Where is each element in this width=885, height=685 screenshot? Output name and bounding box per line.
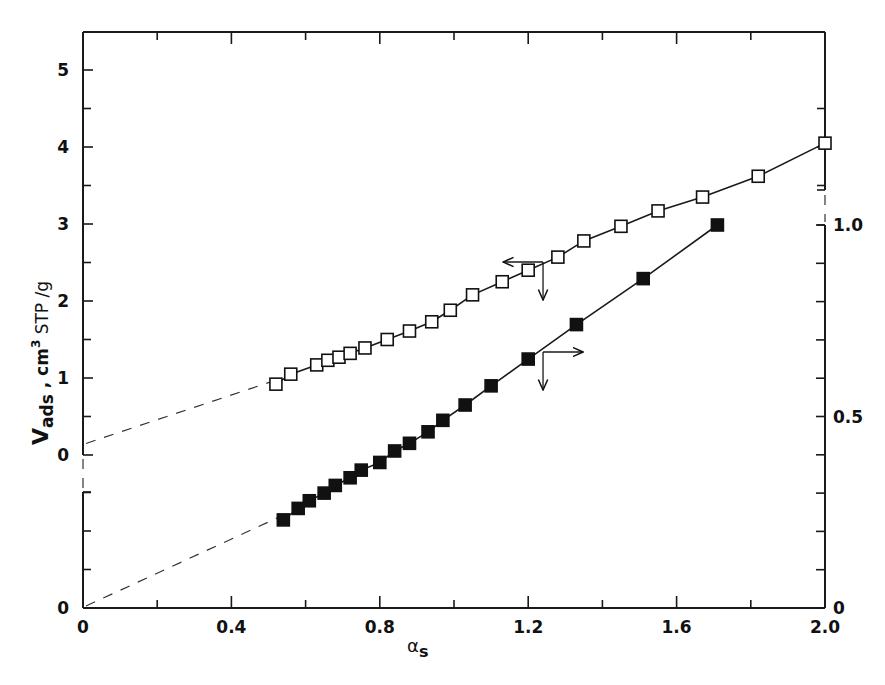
x-axis-title-sub: s [419,642,429,661]
filled-square-marker [329,479,341,491]
open-square-marker [403,325,415,337]
filled-square-marker [344,472,356,484]
open-square-marker [444,304,456,316]
left-y-tick-label: 5 [57,60,69,80]
open-square-marker [344,347,356,359]
left-y-tick-label: 0 [57,445,69,465]
open-square-marker [285,368,297,380]
open-square-marker [426,316,438,328]
open-square-marker [552,251,564,263]
open-square-marker [522,264,534,276]
filled-square-marker [374,456,386,468]
y-axis-title-sup: 3 [29,340,43,348]
open-square-marker [496,276,508,288]
open-square-marker [270,378,282,390]
y-axis-title-rest: , cm [32,348,52,394]
filled-square-marker [403,437,415,449]
filled-square-marker [318,487,330,499]
open-series-extrapolation [86,382,270,443]
open-square-marker [697,191,709,203]
x-tick-label: 1.6 [662,617,692,637]
open-square-marker [652,205,664,217]
alpha-s-plot: 00.40.81.21.62.0012345000.51.0 αs Vads ,… [0,0,885,685]
x-axis-title: αs [407,635,428,661]
x-axis-title-alpha: α [407,635,419,656]
open-square-marker [333,351,345,363]
y-axis-title: Vads , cm3 STP /g [28,281,57,445]
filled-square-marker [389,445,401,457]
right-y-tick-label: 0 [833,598,845,618]
open-square-marker [467,289,479,301]
data-series [270,137,831,526]
left-y-tick-label: 4 [57,137,69,157]
filled-square-marker [292,502,304,514]
open-square-marker [311,359,323,371]
filled-square-marker [570,319,582,331]
open-square-marker [578,235,590,247]
tick-labels: 00.40.81.21.62.0012345000.51.0 [57,60,863,637]
y-axis-title-sub: ads [37,394,57,428]
filled-square-marker [459,399,471,411]
open-square-marker [322,354,334,366]
x-tick-label: 1.2 [513,617,543,637]
left-y-tick-label: 1 [57,368,69,388]
tick-marks [83,32,825,608]
open-square-marker [359,342,371,354]
filled-series-extrapolation [86,518,277,606]
y-axis-title-v: V [28,428,53,445]
right-y-tick-label: 0.5 [833,407,863,427]
dashed-extrapolations [86,382,277,606]
filled-square-marker [422,426,434,438]
filled-square-marker [277,514,289,526]
x-tick-label: 0 [77,617,89,637]
right-y-tick-label: 1.0 [833,215,863,235]
x-tick-label: 0.4 [216,617,246,637]
y-axis-title-unit: STP /g [32,281,52,340]
left-y-tick-label: 3 [57,214,69,234]
filled-square-marker [637,273,649,285]
filled-square-marker [711,219,723,231]
open-square-marker [752,170,764,182]
open-square-marker [381,334,393,346]
axes [83,32,825,608]
x-tick-label: 2.0 [810,617,840,637]
filled-square-marker [437,414,449,426]
filled-square-marker [355,464,367,476]
filled-square-marker [485,380,497,392]
left-y-tick-label: 2 [57,291,69,311]
left-y-lower-zero-label: 0 [57,598,69,618]
open-square-marker [615,220,627,232]
open-square-marker [819,137,831,149]
filled-square-marker [303,495,315,507]
x-tick-label: 0.8 [365,617,395,637]
filled-square-marker [522,353,534,365]
